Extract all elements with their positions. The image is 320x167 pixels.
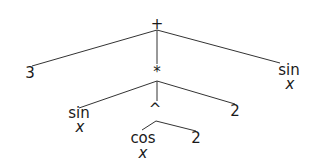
node-two-mult: 2 [230,104,240,119]
node-multiply: * [153,65,161,80]
edge-root-three [32,30,157,66]
edge-pow-two [156,121,196,131]
node-three: 3 [25,66,35,81]
node-plus: + [151,17,164,32]
node-two-pow: 2 [191,131,201,146]
node-sin-right-arg: x [286,77,295,92]
edge-mult-sin [79,81,157,108]
node-power: ^ [149,102,162,117]
edge-mult-two [157,81,235,104]
node-sin-left-arg: x [76,120,85,135]
edge-root-sin [157,30,280,63]
node-cos-arg: x [139,146,148,161]
